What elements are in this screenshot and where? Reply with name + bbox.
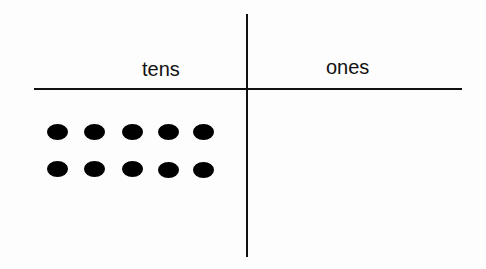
counter-dot [122, 161, 143, 177]
counter-dot [84, 124, 105, 140]
counter-dot [158, 124, 179, 140]
counter-dot [84, 161, 105, 177]
counter-dot [47, 124, 68, 140]
tens-header: tens [142, 58, 180, 81]
counter-dot [122, 124, 143, 140]
counter-dot [47, 161, 68, 177]
counter-dot [158, 162, 179, 178]
column-divider-line [246, 14, 248, 257]
ones-header: ones [326, 56, 369, 79]
counter-dot [193, 162, 214, 178]
header-underline [34, 88, 462, 90]
counter-dot [193, 124, 214, 140]
